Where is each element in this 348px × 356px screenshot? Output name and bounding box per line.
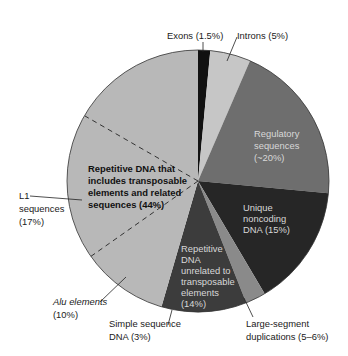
label-introns: Introns (5%) [237, 30, 288, 41]
label-l1: L1 sequences (17%) [19, 190, 67, 227]
label-exons: Exons (1.5%) [167, 30, 223, 41]
label-simple-sequence: Simple sequence DNA (3%) [109, 318, 184, 342]
pie-chart: Exons (1.5%) Introns (5%) L1 sequences (… [0, 0, 348, 356]
label-large-segment: Large-segment duplications (5–6%) [246, 318, 328, 342]
label-alu: Alu elements (10%) [52, 296, 110, 320]
